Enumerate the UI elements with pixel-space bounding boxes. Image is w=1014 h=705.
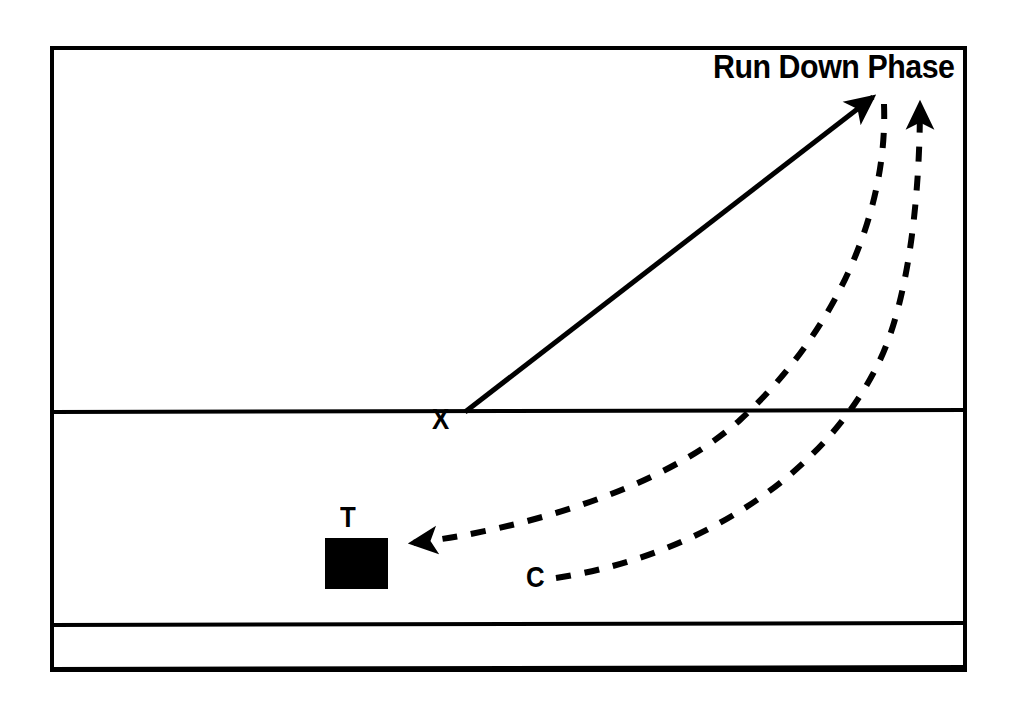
dashed-route-c-upfield [556,104,920,578]
solid-route-x-vertical [465,97,873,412]
yard-line-lower [52,623,965,625]
field-boundary [52,48,965,670]
yard-line-bottom [52,667,965,669]
position-label-t: T [340,502,355,532]
position-label-x: X [432,404,449,434]
dashed-route-to-target [412,104,884,543]
position-label-c: C [526,562,544,592]
field-canvas [0,0,1014,705]
play-diagram: Run Down Phase X T C [0,0,1014,705]
tackle-block-marker [325,538,388,589]
page-title: Run Down Phase [713,50,955,83]
line-of-scrimmage [52,410,965,412]
